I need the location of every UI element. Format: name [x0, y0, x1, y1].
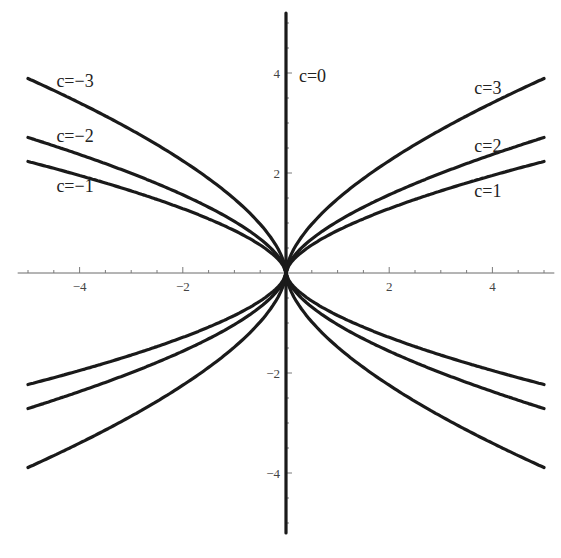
- y-tick-label: −4: [266, 466, 280, 481]
- curve-label: c=−2: [56, 126, 93, 146]
- curve-c2-branch: [286, 138, 544, 274]
- curve-c2-branch: [28, 138, 286, 274]
- curve-c1-branch: [286, 162, 544, 274]
- curve-c3-branch: [28, 273, 286, 468]
- chart-plot-area: −4−22442−2−4 c=−3c=−2c=−1c=0c=3c=2c=1: [0, 0, 561, 558]
- curve-c1-branch: [28, 273, 286, 385]
- curve-label: c=0: [299, 66, 326, 86]
- y-tick-label: 2: [274, 166, 281, 181]
- curve-label: c=−1: [56, 176, 93, 196]
- curve-label: c=−3: [56, 71, 93, 91]
- curve-c2-branch: [286, 273, 544, 409]
- curve-c2-branch: [28, 273, 286, 409]
- curve-c1-branch: [286, 273, 544, 385]
- curve-label: c=1: [474, 181, 501, 201]
- x-tick-label: −2: [176, 279, 190, 294]
- x-tick-label: −4: [73, 279, 87, 294]
- y-tick-label: −2: [266, 366, 280, 381]
- x-tick-label: 4: [489, 279, 496, 294]
- curve-c3-branch: [286, 79, 544, 274]
- curve-c3-branch: [286, 273, 544, 468]
- curve-label: c=2: [474, 136, 501, 156]
- curve-label: c=3: [474, 78, 501, 98]
- y-tick-label: 4: [274, 66, 281, 81]
- x-tick-label: 2: [386, 279, 393, 294]
